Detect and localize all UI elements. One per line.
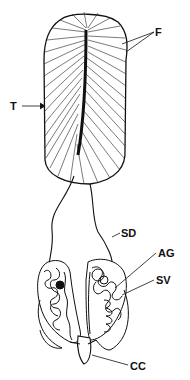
sperm-ducts: [50, 176, 112, 262]
label-sd: SD: [121, 227, 136, 239]
label-cc: CC: [130, 360, 146, 372]
label-ag: AG: [158, 247, 175, 259]
testis: [44, 12, 127, 184]
label-sv: SV: [156, 274, 171, 286]
label-f: F: [155, 26, 162, 38]
diagram-canvas: F T SD AG SV CC: [0, 0, 190, 380]
label-t: T: [10, 100, 17, 112]
